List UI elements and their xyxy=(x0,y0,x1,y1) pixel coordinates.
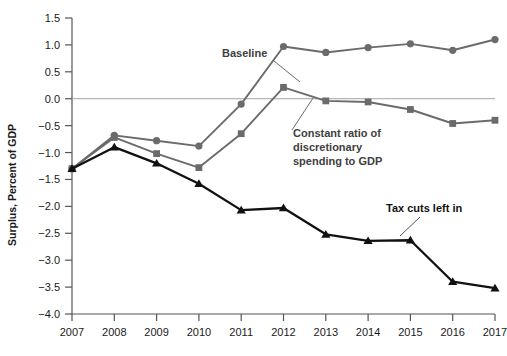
data-point-square xyxy=(153,150,160,157)
y-tick-label: −4.0 xyxy=(38,308,60,320)
y-tick-label: −3.5 xyxy=(38,281,60,293)
y-tick-label: −2.0 xyxy=(38,200,60,212)
data-point-square xyxy=(111,134,118,141)
data-point-circle xyxy=(491,36,498,43)
x-tick-label: 2008 xyxy=(102,326,126,338)
data-point-circle xyxy=(280,43,287,50)
y-tick-label: 1.0 xyxy=(45,39,60,51)
x-tick-label: 2012 xyxy=(271,326,295,338)
data-point-square xyxy=(407,106,414,113)
data-point-square xyxy=(322,97,329,104)
y-tick-label: −3.0 xyxy=(38,254,60,266)
annotation-tax-cuts-label: Tax cuts left in xyxy=(386,202,462,214)
x-tick-label: 2013 xyxy=(314,326,338,338)
data-point-square xyxy=(196,164,203,171)
data-point-circle xyxy=(195,142,202,149)
data-point-circle xyxy=(365,44,372,51)
y-tick-label: −1.5 xyxy=(38,173,60,185)
x-tick-label: 2011 xyxy=(229,326,253,338)
x-tick-label: 2014 xyxy=(356,326,380,338)
x-tick-label: 2015 xyxy=(398,326,422,338)
y-tick-label: 0.0 xyxy=(45,93,60,105)
chart-container: Surplus, Percent of GDP 1.51.00.50.0−0.5… xyxy=(0,0,507,356)
data-point-square xyxy=(238,130,245,137)
y-tick-label: 0.5 xyxy=(45,66,60,78)
annotation-baseline-label: Baseline xyxy=(222,47,267,59)
annotation-constant-ratio-line1: Constant ratio of xyxy=(293,127,381,139)
annotation-constant-ratio-line2: discretionary xyxy=(293,141,363,153)
data-point-square xyxy=(280,84,287,91)
data-point-circle xyxy=(238,101,245,108)
y-tick-label: −1.0 xyxy=(38,147,60,159)
y-tick-label: −2.5 xyxy=(38,227,60,239)
data-point-square xyxy=(492,117,499,124)
x-tick-label: 2017 xyxy=(483,326,507,338)
y-tick-label: −0.5 xyxy=(38,120,60,132)
y-axis-label-text: Surplus, Percent of GDP xyxy=(6,124,18,246)
x-tick-label: 2016 xyxy=(440,326,464,338)
x-tick-label: 2009 xyxy=(144,326,168,338)
x-tick-label: 2010 xyxy=(187,326,211,338)
x-tick-label: 2007 xyxy=(60,326,84,338)
data-point-circle xyxy=(153,137,160,144)
y-axis-label: Surplus, Percent of GDP xyxy=(6,124,18,246)
data-point-square xyxy=(449,120,456,127)
surplus-percent-of-gdp-line-chart: Surplus, Percent of GDP 1.51.00.50.0−0.5… xyxy=(0,0,507,356)
annotation-constant-ratio-line3: spending to GDP xyxy=(293,155,382,167)
data-point-circle xyxy=(449,47,456,54)
y-tick-label: 1.5 xyxy=(45,12,60,24)
data-point-circle xyxy=(322,49,329,56)
data-point-circle xyxy=(407,40,414,47)
data-point-square xyxy=(365,99,372,106)
